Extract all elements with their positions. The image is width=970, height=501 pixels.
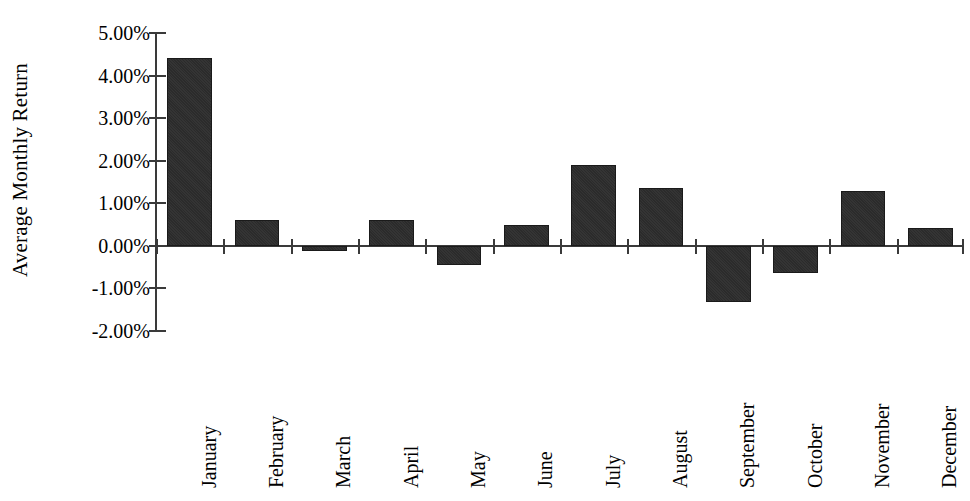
x-axis-tick-mark xyxy=(962,239,964,254)
bar xyxy=(639,188,683,245)
x-axis-tick-mark xyxy=(425,239,427,254)
x-axis-tick-mark xyxy=(291,239,293,254)
y-tick-label: 1.00% xyxy=(42,193,150,213)
y-tick-label: 4.00% xyxy=(42,66,150,86)
x-axis-tick-mark xyxy=(358,239,360,254)
bar xyxy=(235,220,279,246)
x-axis-label: May xyxy=(468,451,488,488)
bar xyxy=(369,220,413,246)
x-axis-label: December xyxy=(939,406,959,488)
x-axis-tick-mark xyxy=(560,239,562,254)
x-axis-label: September xyxy=(737,402,757,488)
bar xyxy=(437,246,481,265)
bar xyxy=(773,246,817,273)
bar xyxy=(167,58,211,246)
bar xyxy=(571,165,615,246)
y-tick-label: -1.00% xyxy=(42,278,150,298)
x-axis-tick-mark xyxy=(829,239,831,254)
bar xyxy=(302,246,346,251)
x-axis-label: January xyxy=(199,426,219,488)
x-axis-label: March xyxy=(333,436,353,488)
x-axis-label: June xyxy=(535,451,555,488)
x-axis-label: November xyxy=(872,404,892,488)
bar xyxy=(504,225,548,246)
x-axis-tick-mark xyxy=(695,239,697,254)
x-axis-tick-mark xyxy=(493,239,495,254)
bar xyxy=(841,191,885,246)
y-axis-tick-labels: 5.00%4.00%3.00%2.00%1.00%0.00%-1.00%-2.0… xyxy=(42,0,150,501)
x-axis-tick-mark xyxy=(223,239,225,254)
x-axis-tick-mark xyxy=(897,239,899,254)
x-axis-label: April xyxy=(401,446,421,488)
y-tick-label: 2.00% xyxy=(42,151,150,171)
x-axis-tick-mark xyxy=(762,239,764,254)
y-tick-label: 5.00% xyxy=(42,23,150,43)
y-tick-label: 3.00% xyxy=(42,108,150,128)
bar-chart: Average Monthly Return 5.00%4.00%3.00%2.… xyxy=(0,0,970,501)
x-axis-label: February xyxy=(266,416,286,488)
x-axis-tick-mark xyxy=(627,239,629,254)
y-axis-title: Average Monthly Return xyxy=(0,0,40,340)
y-tick-label: -2.00% xyxy=(42,321,150,341)
bar xyxy=(706,246,750,302)
x-axis-label: August xyxy=(670,430,690,488)
x-axis-label: October xyxy=(805,424,825,488)
y-tick-label: 0.00% xyxy=(42,236,150,256)
x-axis-tick-mark xyxy=(156,239,158,254)
x-axis-label: July xyxy=(603,455,623,488)
bar xyxy=(908,228,952,246)
